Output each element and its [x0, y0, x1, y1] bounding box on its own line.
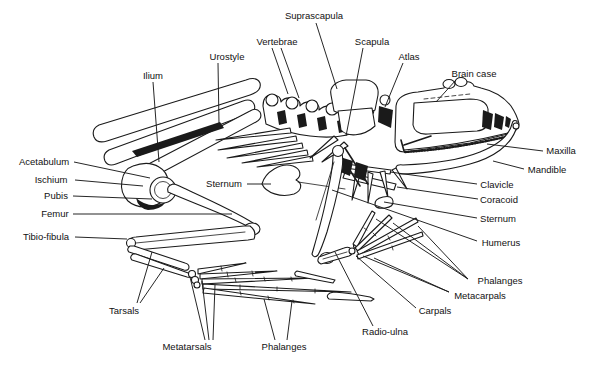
label-vertebrae: Vertebrae — [256, 37, 297, 47]
leader-line-mandible — [493, 161, 524, 169]
label-suprascapula: Suprascapula — [285, 11, 343, 21]
atlas-knob — [380, 95, 390, 105]
vertebra-knob — [306, 100, 318, 112]
femur-bone — [168, 184, 253, 227]
toe-bone — [202, 278, 314, 284]
girdle-spike — [368, 172, 373, 203]
humerus-bone — [312, 151, 343, 257]
leader-line-phalanges-foot — [287, 301, 292, 340]
label-tarsals: Tarsals — [109, 306, 139, 316]
leader-line-coracoid — [397, 187, 478, 199]
label-sternum-left: Sternum — [206, 179, 242, 189]
leader-line-humerus — [332, 190, 477, 241]
leader-line-vertebrae — [272, 48, 288, 94]
leader-line-phalanges-hand — [376, 219, 468, 279]
leader-line-phalanges-foot — [264, 299, 275, 340]
label-phalanges-hand: Phalanges — [478, 276, 523, 286]
label-pubis: Pubis — [44, 191, 68, 201]
label-ilium: Ilium — [143, 71, 163, 81]
label-metatarsals: Metatarsals — [162, 342, 211, 352]
label-brain-case: Brain case — [452, 69, 497, 79]
leader-line-tibio-fibula — [75, 237, 127, 239]
label-ischium: Ischium — [35, 175, 68, 185]
carpal-bone — [349, 248, 355, 254]
leader-line-radio-ulna — [335, 252, 373, 326]
label-carpals: Carpals — [419, 306, 452, 316]
label-coracoid: Coracoid — [480, 195, 518, 205]
label-sternum-right: Sternum — [480, 214, 516, 224]
label-atlas: Atlas — [398, 52, 419, 62]
frog-skeleton-diagram: SuprascapulaVertebraeScapulaAtlasBrain c… — [0, 0, 591, 365]
label-femur: Femur — [41, 209, 68, 219]
humerus-head — [333, 146, 344, 157]
vertebra-knob — [266, 94, 278, 106]
skeleton-bones — [93, 78, 519, 305]
leader-line-metacarpals — [374, 258, 449, 292]
leader-line-tarsals — [140, 268, 164, 303]
scapula-bone — [338, 108, 375, 135]
leader-line-suprascapula — [316, 23, 337, 89]
label-scapula: Scapula — [355, 37, 389, 47]
label-metacarpals: Metacarpals — [454, 291, 506, 301]
loose-bone — [327, 292, 374, 301]
tibiofibula-bone — [128, 226, 255, 250]
leader-line-phalanges-hand — [418, 226, 468, 279]
label-acetabulum: Acetabulum — [19, 157, 69, 167]
leader-line-vertebrae — [281, 48, 299, 98]
orbit — [413, 99, 488, 134]
jaw-joint — [513, 123, 519, 129]
leader-line-sternum-right — [384, 202, 477, 218]
label-humerus: Humerus — [482, 238, 521, 248]
label-maxilla: Maxilla — [546, 146, 576, 156]
label-radio-ulna: Radio-ulna — [362, 327, 408, 337]
label-clavicle: Clavicle — [480, 180, 513, 190]
leader-line-phalanges-hand — [393, 223, 468, 279]
atlas-bone — [378, 106, 393, 128]
vertebra-knob — [286, 97, 298, 109]
label-tibio-fibula: Tibio-fibula — [23, 232, 69, 242]
label-phalanges-foot: Phalanges — [262, 342, 307, 352]
label-urostyle: Urostyle — [210, 52, 245, 62]
label-mandible: Mandible — [528, 165, 567, 175]
toe-bone — [200, 271, 277, 279]
sternum-bone — [262, 165, 301, 195]
loose-bone — [295, 271, 335, 283]
